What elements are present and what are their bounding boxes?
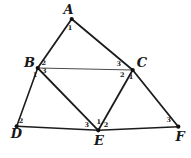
angle-label-C-1: 1 [129, 73, 134, 81]
geometry-figure: ABCDEF123132123123 [0, 0, 191, 158]
angle-label-E-2: 2 [104, 121, 109, 129]
angle-label-F-3: 3 [166, 116, 171, 124]
vertex-label-E: E [93, 133, 105, 148]
edge-E-F [98, 127, 178, 131]
angle-label-C-2: 2 [120, 71, 125, 79]
vertex-label-A: A [61, 2, 73, 17]
angle-label-B-2: 2 [41, 59, 46, 67]
vertex-dot-A [70, 17, 74, 21]
edge-A-C [72, 19, 133, 70]
edge-B-C [38, 68, 133, 70]
angle-label-E-1: 1 [96, 118, 101, 126]
angle-label-E-3: 3 [84, 121, 89, 129]
vertex-dot-B [36, 66, 40, 70]
edge-B-E [38, 68, 99, 130]
geometry-svg: ABCDEF123132123123 [0, 0, 191, 158]
angle-label-A-1: 1 [68, 24, 73, 32]
vertex-label-F: F [174, 129, 185, 144]
vertex-label-C: C [137, 55, 148, 70]
angle-label-B-1: 1 [33, 71, 38, 79]
angle-label-D-2: 2 [19, 117, 24, 125]
angle-label-B-3: 3 [42, 67, 47, 75]
vertex-label-B: B [23, 55, 35, 70]
angle-label-C-3: 3 [116, 60, 121, 68]
edge-C-F [133, 70, 179, 127]
vertex-label-D: D [10, 126, 23, 141]
vertex-dot-C [131, 68, 135, 72]
